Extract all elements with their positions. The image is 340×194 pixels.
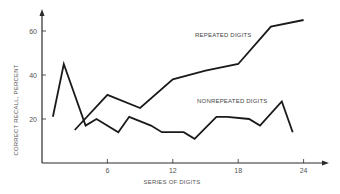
x-axis-ticks: 6121824 <box>105 159 307 174</box>
y-axis-arrow-icon <box>40 9 45 16</box>
axes <box>40 9 330 166</box>
y-axis-ticks: 204060 <box>29 28 46 123</box>
x-tick-label: 12 <box>169 167 177 174</box>
plot-lines <box>53 20 304 139</box>
y-tick-label: 20 <box>29 116 37 123</box>
x-tick-label: 18 <box>234 167 242 174</box>
series-label-nonrepeated: NONREPEATED DIGITS <box>197 98 268 104</box>
y-axis-title: CORRECT RECALL, PERCENT <box>13 64 19 155</box>
line-chart: 204060 6121824 SERIES OF DIGITS CORRECT … <box>0 0 340 194</box>
x-tick-label: 6 <box>105 167 109 174</box>
series-label-repeated: REPEATED DIGITS <box>195 32 252 38</box>
y-tick-label: 40 <box>29 72 37 79</box>
x-axis-title: SERIES OF DIGITS <box>144 179 201 185</box>
y-tick-label: 60 <box>29 28 37 35</box>
series-line-repeated <box>75 20 304 130</box>
x-tick-label: 24 <box>300 167 308 174</box>
x-axis-arrow-icon <box>322 161 329 166</box>
